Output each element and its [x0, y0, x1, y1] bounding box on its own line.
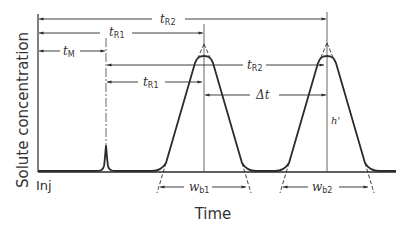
svg-text:tM: tM — [63, 44, 75, 59]
wb1-dimension: wb1 — [160, 180, 246, 195]
svg-text:Δt: Δt — [255, 88, 270, 102]
svg-text:tR1: tR1 — [143, 75, 158, 90]
injection-label: Inj — [36, 178, 52, 193]
svg-text:tR2: tR2 — [247, 58, 262, 73]
svg-text:wb1: wb1 — [189, 180, 209, 195]
x-axis-label: Time — [194, 205, 232, 223]
y-axis-label: Solute concentration — [14, 32, 32, 188]
tr2-outer-dimension: tR2 — [39, 12, 326, 27]
wb2-dimension: wb2 — [283, 180, 368, 195]
svg-text:tR1: tR1 — [109, 25, 124, 40]
svg-text:wb2: wb2 — [312, 180, 332, 195]
chromatogram-trace — [38, 56, 396, 171]
svg-text:tR2: tR2 — [160, 12, 175, 27]
chromatogram-diagram: Solute concentration Inj Time tR2 tR1 tM… — [0, 0, 412, 229]
tm-dimension: tM — [39, 44, 105, 59]
tr1-outer-dimension: tR1 — [39, 25, 203, 40]
height-label: h' — [331, 115, 340, 126]
